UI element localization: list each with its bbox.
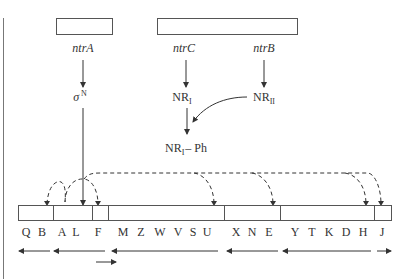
svg-text:A: A (58, 225, 67, 239)
nr2-label: NRII (253, 90, 275, 106)
svg-text:U: U (203, 225, 212, 239)
operon-gene-labels: Q B A L F M Z W V S U X N E Y T K D H J (22, 225, 385, 239)
nr1-label: NRI (172, 90, 192, 106)
ntrB-label: ntrB (253, 41, 275, 55)
ntrC-label: ntrC (173, 41, 196, 55)
nr2-phosphorylation-arrow (193, 97, 247, 122)
sigma-n-label: σN (73, 89, 87, 104)
svg-text:B: B (38, 225, 46, 239)
svg-text:W: W (154, 225, 166, 239)
svg-text:K: K (325, 225, 334, 239)
svg-text:H: H (359, 225, 368, 239)
ntrA-gene-box (57, 19, 113, 35)
svg-text:N: N (248, 225, 257, 239)
svg-text:S: S (190, 225, 197, 239)
svg-text:E: E (265, 225, 272, 239)
nitrogen-regulation-diagram: ntrA ntrC ntrB σN NRI NRII NRI– Ph (0, 0, 408, 279)
svg-text:V: V (174, 225, 183, 239)
nr1-ph-label: NRI– Ph (165, 141, 207, 157)
svg-text:Y: Y (291, 225, 300, 239)
svg-text:M: M (118, 225, 129, 239)
svg-text:J: J (380, 225, 385, 239)
dashed-activation-arcs (47, 173, 381, 204)
svg-text:Z: Z (137, 225, 144, 239)
svg-text:L: L (72, 225, 79, 239)
ntrA-label: ntrA (72, 41, 94, 55)
svg-text:T: T (308, 225, 316, 239)
ntrCB-gene-box (158, 19, 298, 35)
svg-text:D: D (342, 225, 351, 239)
svg-text:F: F (95, 225, 102, 239)
gln-operon-box (19, 205, 392, 221)
svg-text:X: X (232, 225, 241, 239)
transcription-arrows (19, 251, 391, 262)
svg-text:Q: Q (22, 225, 31, 239)
